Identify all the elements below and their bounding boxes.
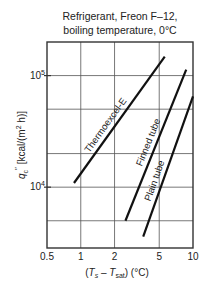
y-axis-ticks: 104105 — [30, 69, 51, 193]
title-line-1: Refrigerant, Freon F–12, — [63, 10, 178, 22]
title-line-2: boiling temperature, 0°C — [63, 24, 177, 36]
series-label: Thermoexcel-E — [82, 96, 129, 155]
x-tick-label: 2 — [112, 251, 118, 262]
x-axis-label: (Ts – Tsat) (°C) — [85, 267, 149, 279]
svg-text:qc″ [kcal/(m2 h)]: qc″ [kcal/(m2 h)] — [13, 111, 29, 179]
x-tick-label: 0.5 — [40, 251, 54, 262]
y-tick-label: 105 — [30, 69, 45, 81]
plot-frame — [47, 42, 193, 248]
gridlines — [47, 42, 193, 248]
chart: Refrigerant, Freon F–12, boiling tempera… — [0, 0, 204, 294]
y-tick-label: 104 — [30, 180, 45, 192]
chart-title: Refrigerant, Freon F–12, boiling tempera… — [63, 10, 178, 36]
y-axis-label: qc″ [kcal/(m2 h)] — [13, 111, 29, 179]
svg-text:Thermoexcel-E: Thermoexcel-E — [82, 96, 129, 155]
x-tick-label: 1 — [78, 251, 84, 262]
svg-text:(Ts – Tsat) (°C): (Ts – Tsat) (°C) — [85, 267, 149, 279]
x-tick-label: 10 — [187, 251, 199, 262]
x-tick-label: 5 — [156, 251, 162, 262]
x-axis-ticks: 0.512510 — [40, 251, 199, 262]
